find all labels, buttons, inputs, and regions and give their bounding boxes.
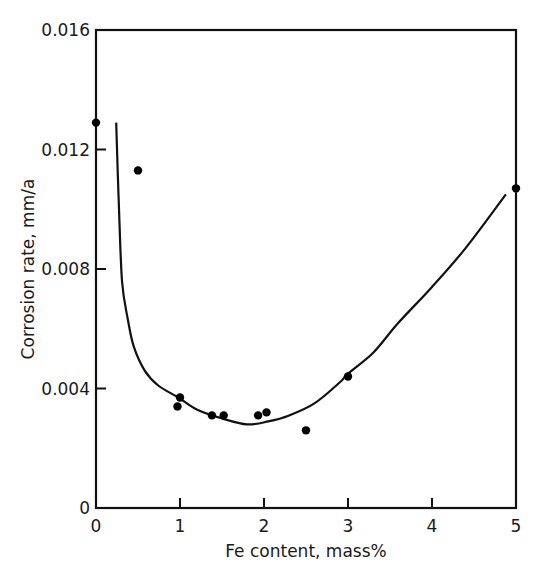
- y-tick-label: 0.004: [41, 379, 90, 399]
- data-point: [176, 393, 184, 401]
- data-point: [302, 426, 310, 434]
- y-axis-label: Corrosion rate, mm/a: [18, 179, 38, 360]
- plot-frame: [96, 30, 516, 508]
- data-point: [512, 184, 520, 192]
- y-tick-label: 0.012: [41, 140, 90, 160]
- data-point: [344, 372, 352, 380]
- x-tick-label: 0: [91, 516, 102, 536]
- x-tick-label: 1: [175, 516, 186, 536]
- y-tick-label: 0: [79, 498, 90, 518]
- x-tick-label: 4: [427, 516, 438, 536]
- data-point: [92, 118, 100, 126]
- y-tick-label: 0.008: [41, 259, 90, 279]
- data-point: [219, 411, 227, 419]
- data-point: [173, 402, 181, 410]
- data-points: [92, 118, 520, 434]
- x-axis-label: Fe content, mass%: [225, 541, 386, 561]
- corrosion-rate-chart: 012345 00.0040.0080.0120.016 Fe content,…: [0, 0, 545, 575]
- x-tick-label: 2: [259, 516, 270, 536]
- x-tick-label: 3: [343, 516, 354, 536]
- data-point: [254, 411, 262, 419]
- y-tick-label: 0.016: [41, 20, 90, 40]
- data-point: [262, 408, 270, 416]
- x-axis-ticks: 012345: [91, 498, 522, 536]
- trend-curve: [116, 123, 506, 425]
- x-tick-label: 5: [511, 516, 522, 536]
- data-point: [208, 411, 216, 419]
- data-point: [134, 166, 142, 174]
